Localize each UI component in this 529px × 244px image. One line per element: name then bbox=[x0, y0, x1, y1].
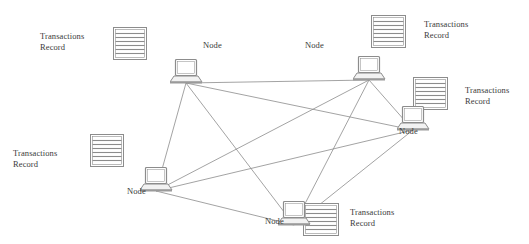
laptop-icon bbox=[170, 58, 203, 89]
transactions-record-label: Transactions Record bbox=[350, 207, 394, 229]
network-diagram: NodeTransactions RecordNodeTransactions … bbox=[0, 0, 529, 244]
laptop-icon bbox=[353, 55, 386, 86]
document-icon bbox=[371, 15, 406, 52]
transactions-record-label: Transactions Record bbox=[13, 148, 57, 170]
document-icon bbox=[90, 134, 124, 171]
node-label: Node bbox=[399, 126, 418, 137]
network-edge bbox=[156, 80, 369, 191]
document-icon bbox=[113, 27, 147, 64]
network-edge bbox=[186, 83, 413, 130]
node-label: Node bbox=[127, 186, 146, 197]
network-edge bbox=[186, 80, 369, 83]
node-label: Node bbox=[265, 216, 284, 227]
node-label: Node bbox=[305, 40, 324, 51]
transactions-record-label: Transactions Record bbox=[465, 85, 509, 107]
transactions-record-label: Transactions Record bbox=[424, 19, 468, 41]
transactions-record-label: Transactions Record bbox=[40, 31, 84, 53]
node-label: Node bbox=[203, 40, 222, 51]
